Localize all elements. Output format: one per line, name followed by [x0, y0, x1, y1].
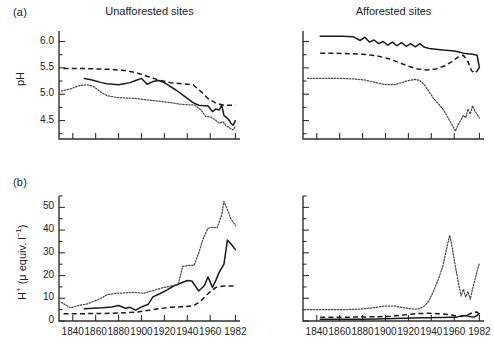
- y-tick-label: 0: [48, 314, 54, 325]
- panel-label-b: (b): [13, 176, 27, 188]
- series-line-dashed: [320, 312, 479, 317]
- plot-panel-b-afforested: [0, 0, 494, 353]
- panel-title-unafforested: Unafforested sites: [59, 5, 240, 17]
- series-line-dotted: [61, 85, 235, 130]
- series-line-solid: [320, 36, 479, 68]
- y-tick-label: 5.0: [40, 87, 54, 98]
- y-tick-label: 30: [43, 246, 54, 257]
- series-line-dashed: [320, 53, 479, 73]
- axis-spine: [59, 196, 240, 321]
- axis-spine: [303, 196, 484, 321]
- y-tick-label: 10: [43, 291, 54, 302]
- series-line-dashed: [64, 68, 236, 105]
- x-tick-label: 1982: [219, 326, 251, 337]
- y-tick-label: 20: [43, 269, 54, 280]
- series-line-dotted: [308, 235, 480, 310]
- series-line-dotted: [308, 78, 480, 131]
- series-line-solid: [84, 240, 235, 310]
- series-line-dotted: [61, 201, 235, 307]
- series-line-dashed: [64, 286, 236, 314]
- x-tick-label: 1982: [463, 326, 494, 337]
- series-line-solid: [320, 314, 479, 319]
- plot-panel-b-unafforested: [0, 0, 494, 353]
- y-tick-label: 40: [43, 223, 54, 234]
- y-tick-label: 50: [43, 200, 54, 211]
- axis-spine: [59, 31, 240, 139]
- y-tick-label: 5.5: [40, 61, 54, 72]
- panel-label-a: (a): [13, 6, 27, 18]
- y-axis-title-ph: pH: [14, 72, 26, 86]
- panel-title-afforested: Afforested sites: [303, 5, 484, 17]
- axis-spine: [303, 31, 484, 139]
- y-tick-label: 6.0: [40, 35, 54, 46]
- plot-panel-a-unafforested: [0, 0, 494, 353]
- y-tick-label: 4.5: [40, 114, 54, 125]
- plot-panel-a-afforested: [0, 0, 494, 353]
- figure-root: 4.55.05.56.00102030405018401860188019001…: [0, 0, 494, 353]
- y-axis-title-hplus: H+ (μ equiv. l−1): [14, 225, 28, 300]
- series-line-solid: [84, 78, 235, 125]
